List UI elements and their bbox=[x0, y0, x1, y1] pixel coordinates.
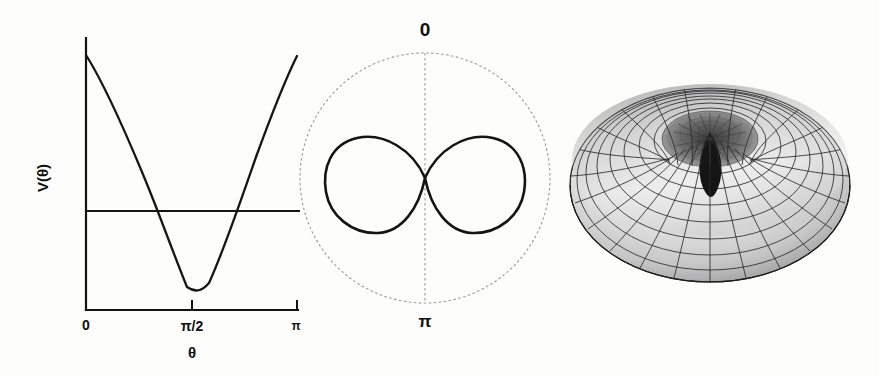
polar-lobe-right bbox=[425, 137, 525, 233]
panel-potential-curve: 0 π/2 π θ V(θ) bbox=[0, 0, 300, 376]
polar-lobe-left bbox=[325, 137, 425, 233]
polar-label-zero: 0 bbox=[420, 19, 431, 40]
potential-curve-svg: 0 π/2 π θ V(θ) bbox=[0, 0, 300, 376]
torus-body bbox=[570, 84, 850, 282]
x-tick-label-0: 0 bbox=[82, 317, 90, 333]
potential-energy-curve bbox=[86, 55, 297, 290]
x-axis-label: θ bbox=[188, 344, 196, 361]
figure-root: 0 π/2 π θ V(θ) 0 π bbox=[0, 0, 879, 376]
panel-torus-surface bbox=[560, 0, 879, 376]
x-tick-label-pi-over-2: π/2 bbox=[181, 318, 204, 334]
torus-surface-svg bbox=[560, 0, 879, 376]
panel-polar-plot: 0 π bbox=[300, 0, 550, 376]
polar-label-pi: π bbox=[418, 312, 431, 331]
polar-plot-svg: 0 π bbox=[300, 0, 550, 376]
y-axis-label: V(θ) bbox=[34, 164, 51, 192]
